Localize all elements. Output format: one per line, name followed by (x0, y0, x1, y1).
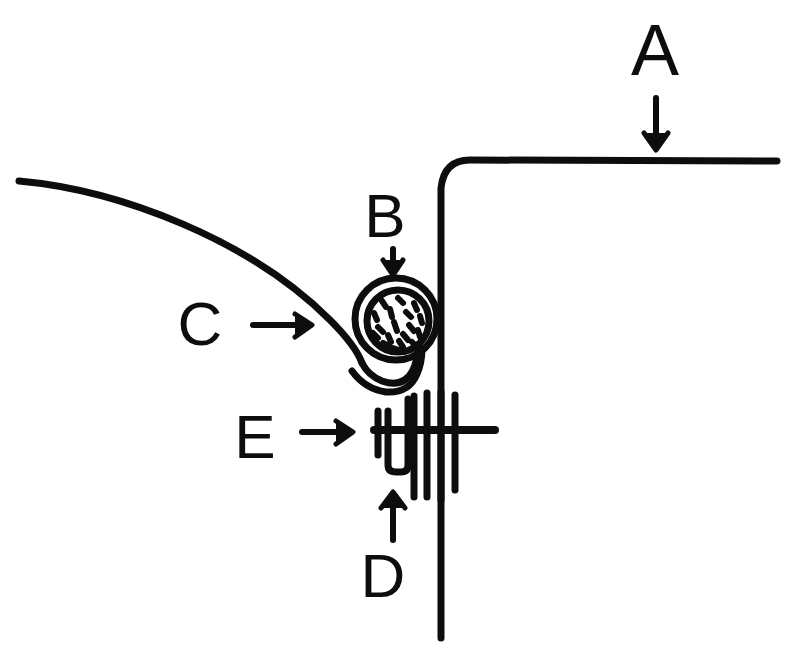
figure-container: A B C E (0, 0, 790, 659)
label-C-text: C (178, 289, 223, 358)
label-D-text: D (361, 541, 406, 610)
line-diagram: A B C E (0, 0, 790, 659)
label-B-text: B (364, 181, 405, 250)
label-A-text: A (631, 10, 679, 90)
label-E-text: E (234, 402, 275, 471)
